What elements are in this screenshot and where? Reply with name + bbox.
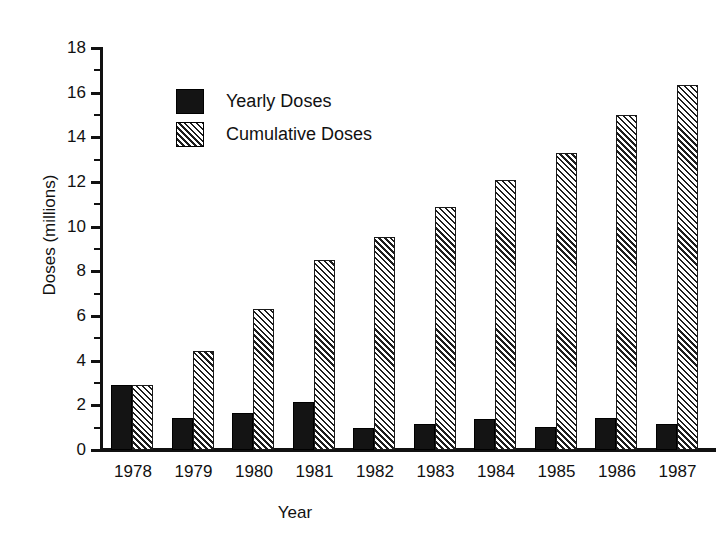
bar-group-1978 (103, 47, 163, 450)
bar-yearly-1978 (111, 385, 132, 450)
y-tick-2 (91, 404, 100, 407)
bar-yearly-1986 (595, 418, 616, 450)
y-tick-6 (91, 315, 100, 318)
y-tick-10 (91, 226, 100, 229)
x-tick-label-1978: 1978 (98, 462, 168, 482)
x-tick-label-1980: 1980 (219, 462, 289, 482)
bar-cumulative-1981 (314, 260, 335, 450)
bar-cumulative-1980 (253, 309, 274, 450)
y-tick-16 (91, 92, 100, 95)
bar-cumulative-1978 (132, 385, 153, 450)
bar-yearly-1980 (232, 413, 253, 450)
x-tick-label-1985: 1985 (522, 462, 592, 482)
y-tick-label-4: 4 (50, 352, 86, 369)
x-tick-label-1981: 1981 (280, 462, 350, 482)
y-tick-0 (91, 449, 100, 452)
y-tick-label-18: 18 (50, 39, 86, 56)
bar-chart-figure: 024681012141618 Doses (millions) 1978197… (0, 0, 719, 553)
y-tick-14 (91, 136, 100, 139)
bar-cumulative-1979 (193, 351, 214, 450)
solid-black-swatch (176, 89, 204, 114)
x-tick-label-1982: 1982 (340, 462, 410, 482)
legend-label-cumulative-doses: Cumulative Doses (226, 124, 372, 145)
y-tick-12 (91, 181, 100, 184)
y-tick-label-2: 2 (50, 396, 86, 413)
bar-yearly-1983 (414, 424, 435, 450)
bar-yearly-1987 (656, 424, 677, 450)
y-tick-18 (91, 47, 100, 50)
legend-entry-cumulative-doses: Cumulative Doses (176, 118, 476, 151)
bar-yearly-1981 (293, 402, 314, 450)
legend-entry-yearly-doses: Yearly Doses (176, 85, 476, 118)
y-tick-label-16: 16 (50, 84, 86, 101)
x-tick-label-1983: 1983 (401, 462, 471, 482)
legend-label-yearly-doses: Yearly Doses (226, 91, 331, 112)
bar-yearly-1984 (474, 419, 495, 450)
bar-cumulative-1986 (616, 115, 637, 450)
y-axis-title: Doses (millions) (40, 140, 60, 330)
bar-yearly-1979 (172, 418, 193, 450)
y-tick-label-0: 0 (50, 441, 86, 458)
x-tick-label-1986: 1986 (582, 462, 652, 482)
y-tick-4 (91, 360, 100, 363)
bar-group-1986 (587, 47, 647, 450)
x-tick-label-1984: 1984 (461, 462, 531, 482)
bar-group-1985 (527, 47, 587, 450)
bar-cumulative-1984 (495, 180, 516, 450)
bar-cumulative-1982 (374, 237, 395, 450)
x-tick-label-1979: 1979 (159, 462, 229, 482)
bar-yearly-1982 (353, 428, 374, 450)
bar-cumulative-1983 (435, 207, 456, 450)
bar-group-1987 (648, 47, 708, 450)
x-axis-title: Year (255, 503, 335, 523)
y-tick-8 (91, 270, 100, 273)
chart-legend: Yearly DosesCumulative Doses (176, 85, 476, 151)
bar-yearly-1985 (535, 427, 556, 450)
hatched-swatch (176, 122, 204, 147)
x-tick-label-1987: 1987 (643, 462, 713, 482)
bar-cumulative-1985 (556, 153, 577, 450)
bar-cumulative-1987 (677, 85, 698, 450)
